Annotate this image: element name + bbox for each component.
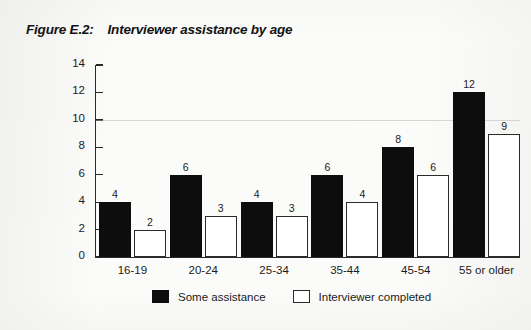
figure-panel: Figure E.2:Interviewer assistance by age… — [0, 0, 531, 330]
x-tick-label: 16-19 — [118, 264, 147, 276]
x-axis-line — [95, 257, 520, 258]
bar-value-label: 9 — [501, 120, 507, 132]
bar-value-label: 8 — [395, 133, 401, 145]
plot-area: 4263436486129 16-1920-2425-3435-4445-545… — [95, 65, 520, 257]
bar-group: 64 — [311, 65, 378, 257]
bar-value-label: 6 — [183, 161, 189, 173]
y-tick-label-14: 14 — [55, 57, 85, 69]
legend-item[interactable]: Some assistance — [152, 290, 266, 303]
legend-item[interactable]: Interviewer completed — [293, 290, 432, 303]
bar-value-label: 4 — [112, 188, 118, 200]
x-tick-label: 20-24 — [189, 264, 218, 276]
bar: 8 — [382, 147, 414, 257]
legend-swatch-dark-icon — [152, 290, 169, 303]
bar: 2 — [134, 230, 166, 257]
bar: 6 — [170, 175, 202, 257]
y-tick-label-8: 8 — [55, 139, 85, 151]
bar: 4 — [99, 202, 131, 257]
figure-title-text: Interviewer assistance by age — [108, 22, 293, 37]
bar-value-label: 4 — [359, 188, 365, 200]
x-tick-label: 55 or older — [459, 264, 514, 276]
bar: 12 — [453, 92, 485, 257]
bar-group: 129 — [453, 65, 520, 257]
bar-group: 86 — [382, 65, 449, 257]
bar-value-label: 3 — [289, 202, 295, 214]
x-tick-label: 35-44 — [330, 264, 359, 276]
bar-value-label: 12 — [463, 78, 475, 90]
y-tick-label-2: 2 — [55, 222, 85, 234]
bar-value-label: 6 — [430, 161, 436, 173]
y-tick-label-10: 10 — [55, 112, 85, 124]
bar: 3 — [276, 216, 308, 257]
figure-title: Figure E.2:Interviewer assistance by age — [26, 22, 292, 37]
bar-group: 63 — [170, 65, 237, 257]
bar-group: 42 — [99, 65, 166, 257]
bar-value-label: 6 — [324, 161, 330, 173]
legend-swatch-light-icon — [293, 290, 310, 303]
chart-legend: Some assistanceInterviewer completed — [152, 290, 431, 303]
bar: 6 — [311, 175, 343, 257]
y-tick-label-12: 12 — [55, 84, 85, 96]
bar: 4 — [346, 202, 378, 257]
bar-value-label: 4 — [254, 188, 260, 200]
legend-label: Interviewer completed — [319, 291, 432, 303]
bar: 9 — [488, 134, 520, 257]
bar-value-label: 3 — [218, 202, 224, 214]
bar: 3 — [205, 216, 237, 257]
y-tick-label-0: 0 — [55, 249, 85, 261]
legend-label: Some assistance — [178, 291, 266, 303]
bar: 6 — [417, 175, 449, 257]
x-tick-label: 25-34 — [259, 264, 288, 276]
bar: 4 — [241, 202, 273, 257]
figure-label: Figure E.2: — [26, 22, 94, 37]
y-tick-label-6: 6 — [55, 167, 85, 179]
bar-group: 43 — [241, 65, 308, 257]
y-tick-label-4: 4 — [55, 194, 85, 206]
x-tick-label: 45-54 — [401, 264, 430, 276]
bar-value-label: 2 — [147, 216, 153, 228]
